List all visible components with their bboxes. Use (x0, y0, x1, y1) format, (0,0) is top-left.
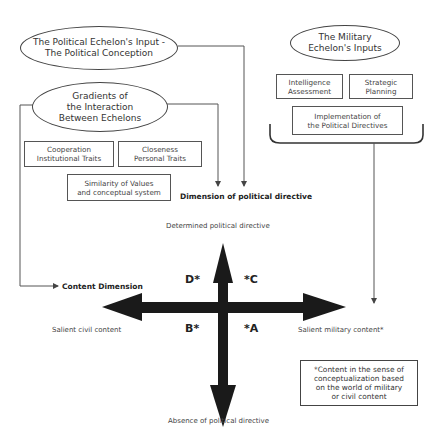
implementation-box: Implementation ofthe Political Directive… (292, 106, 403, 135)
closeness-box: ClosenessPersonal Traits (118, 141, 202, 167)
political-input-ellipse: The Political Echelon's Input -The Polit… (20, 26, 178, 70)
quadrant-d: D* (185, 273, 200, 286)
left-axis-label: Salient civil content (52, 326, 121, 334)
quadrant-b: B* (185, 322, 199, 335)
quadrant-a: *A (244, 322, 258, 335)
right-axis-label: Salient military content* (298, 326, 384, 334)
content-dimension-label: Content Dimension (62, 282, 143, 291)
cooperation-box: CooperationInstitutional Traits (24, 141, 114, 167)
political-dimension-label: Dimension of political directive (180, 192, 312, 201)
military-inputs-ellipse: The MilitaryEchelon's Inputs (290, 25, 400, 61)
gradients-ellipse: Gradients ofthe InteractionBetween Echel… (32, 82, 168, 132)
quadrant-c: *C (244, 273, 258, 286)
bottom-axis-label: Absence of political directive (168, 417, 269, 425)
intelligence-box: IntelligenceAssessment (276, 74, 343, 99)
footnote-box: *Content in the sense ofconceptualizatio… (300, 360, 418, 406)
gradients-left-connector (20, 105, 58, 286)
strategic-box: StrategicPlanning (349, 74, 413, 99)
top-axis-label: Determined political directive (166, 222, 270, 230)
similarity-box: Similarity of Valuesand conceptual syste… (67, 174, 171, 201)
